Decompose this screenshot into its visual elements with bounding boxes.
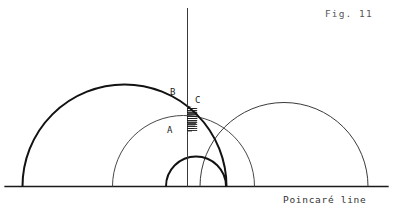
baseline-caption-label: Poincaré line (283, 195, 366, 205)
figure-canvas: Fig. 11 Poincaré line A B C (0, 0, 394, 214)
figure-caption: Fig. 11 (325, 9, 373, 19)
point-label-b: B (170, 88, 176, 97)
small-arc (166, 157, 226, 187)
medium-arc (113, 115, 255, 186)
point-label-a: A (167, 126, 173, 135)
point-label-c: C (195, 96, 201, 105)
poincare-diagram (0, 0, 394, 214)
